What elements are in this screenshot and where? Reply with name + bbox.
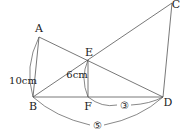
label-e: E bbox=[85, 46, 93, 59]
label-fd-ratio: ③ bbox=[120, 100, 129, 111]
arc-bd-5 bbox=[33, 97, 90, 125]
label-c: C bbox=[172, 0, 180, 11]
segment-ad bbox=[39, 37, 163, 97]
label-ab-length: 10cm bbox=[9, 75, 37, 86]
label-bd-ratio: ⑤ bbox=[93, 120, 102, 131]
segment-cd bbox=[163, 3, 172, 97]
label-f: F bbox=[84, 100, 92, 113]
label-b: B bbox=[29, 100, 37, 113]
geometry-figure: A B C D E F 10cm 6cm ③ ⑤ bbox=[0, 0, 184, 132]
label-a: A bbox=[34, 22, 44, 35]
label-ef-length: 6cm bbox=[66, 69, 88, 80]
label-d: D bbox=[164, 96, 173, 109]
segment-ab bbox=[33, 37, 39, 97]
arc-fd-3 bbox=[88, 97, 117, 106]
arc-ab-10cm bbox=[30, 37, 39, 97]
segment-bc bbox=[33, 3, 172, 97]
